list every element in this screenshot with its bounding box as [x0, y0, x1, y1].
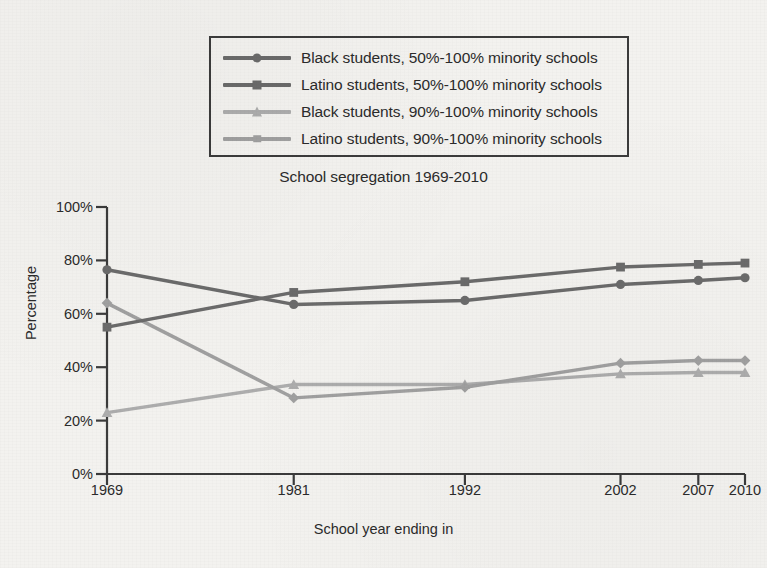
data-point	[616, 280, 625, 289]
plot-area: Percentage School year ending in 0%20%40…	[0, 0, 767, 568]
x-axis-tick-label: 2010	[710, 482, 767, 498]
data-point	[740, 273, 749, 282]
x-axis-tick-label: 1992	[430, 482, 500, 498]
data-point	[694, 276, 703, 285]
x-axis-tick-label: 1969	[72, 482, 142, 498]
data-point	[289, 288, 298, 297]
y-axis-tick-label: 40%	[37, 359, 93, 375]
data-point	[615, 358, 626, 369]
chart-figure: Black students, 50%-100% minority school…	[0, 0, 767, 568]
y-axis-tick-label: 20%	[37, 413, 93, 429]
y-axis-tick-label: 100%	[37, 199, 93, 215]
data-point	[461, 277, 470, 286]
y-axis-tick-label: 0%	[37, 466, 93, 482]
series-circle	[102, 265, 749, 309]
series-line	[107, 373, 745, 413]
data-point	[740, 355, 751, 366]
data-point	[741, 259, 750, 268]
data-point	[693, 355, 704, 366]
series-line	[107, 263, 745, 327]
x-axis-tick-label: 1981	[259, 482, 329, 498]
data-point	[616, 263, 625, 272]
data-point	[694, 260, 703, 269]
series-triangle	[102, 367, 751, 417]
series-diamond	[102, 298, 751, 404]
y-axis-tick-label: 60%	[37, 306, 93, 322]
data-point	[289, 300, 298, 309]
series-square	[103, 259, 750, 332]
series-line	[107, 270, 745, 305]
data-point	[460, 296, 469, 305]
x-axis-title: School year ending in	[0, 521, 767, 537]
data-point	[103, 323, 112, 332]
y-axis-tick-label: 80%	[37, 252, 93, 268]
data-point	[102, 265, 111, 274]
x-axis-tick-label: 2002	[586, 482, 656, 498]
